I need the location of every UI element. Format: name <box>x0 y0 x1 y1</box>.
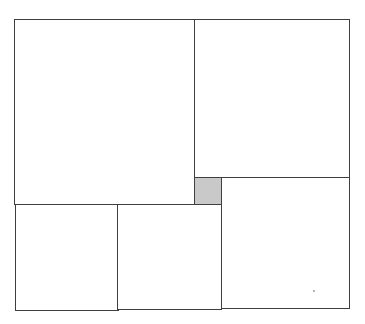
square-small-shaded <box>194 177 222 205</box>
square-bottom-middle <box>117 204 222 310</box>
scan-speck <box>313 290 315 292</box>
square-top-right <box>194 19 350 178</box>
square-bottom-left <box>15 204 119 311</box>
square-bottom-right <box>221 177 350 309</box>
square-large-top-left <box>14 19 195 205</box>
squared-rectangle-diagram <box>0 0 365 324</box>
